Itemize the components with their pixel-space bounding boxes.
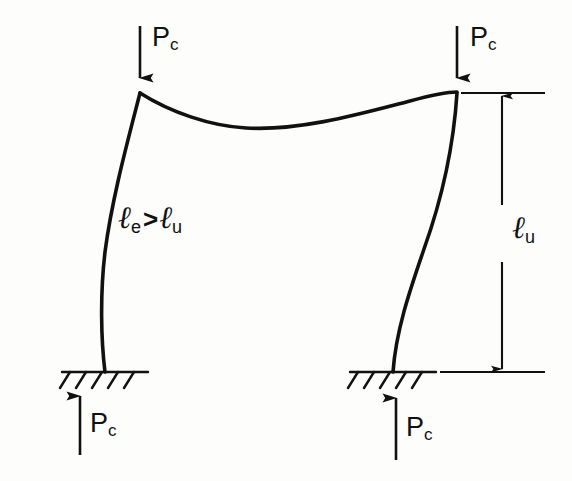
- left-fixed-support: [60, 372, 148, 388]
- load-label-bottom-right: Pc: [406, 414, 433, 443]
- load-symbol: P: [470, 22, 488, 52]
- ell-symbol-effective: ℓ: [118, 200, 131, 235]
- load-label-top-right: Pc: [470, 24, 497, 53]
- ell-subscript-unbraced: u: [525, 227, 535, 247]
- load-label-top-left: Pc: [152, 24, 179, 53]
- ell-subscript-unbraced-inline: u: [172, 217, 182, 237]
- right-column-member: [393, 93, 457, 372]
- right-fixed-support: [348, 372, 436, 388]
- load-symbol: P: [406, 412, 424, 442]
- ell-subscript-effective: e: [131, 217, 141, 237]
- beam-member: [140, 92, 457, 128]
- figure-canvas: [0, 0, 572, 481]
- load-label-bottom-left: Pc: [90, 410, 117, 439]
- load-symbol: P: [90, 408, 108, 438]
- effective-length-annotation: ℓe>ℓu: [118, 202, 182, 236]
- buckling-frame-figure: Pc Pc Pc Pc ℓe>ℓu ℓu: [0, 0, 572, 481]
- ell-symbol-unbraced: ℓ: [512, 210, 525, 245]
- ell-symbol-unbraced-inline: ℓ: [159, 200, 172, 235]
- load-subscript: c: [424, 425, 433, 444]
- unbraced-length-annotation: ℓu: [512, 212, 535, 246]
- greater-than-symbol: >: [143, 204, 158, 234]
- load-symbol: P: [152, 22, 170, 52]
- load-subscript: c: [488, 35, 497, 54]
- load-subscript: c: [108, 421, 117, 440]
- load-subscript: c: [170, 35, 179, 54]
